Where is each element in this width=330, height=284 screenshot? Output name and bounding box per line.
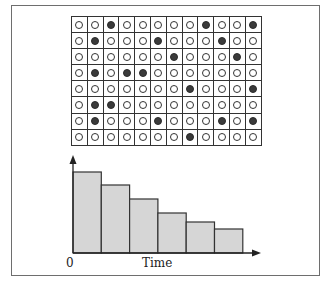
x-axis-arrow-icon bbox=[252, 250, 261, 257]
bar bbox=[158, 213, 186, 253]
bar bbox=[101, 185, 129, 253]
y-axis-arrow-icon bbox=[70, 155, 77, 164]
origin-label: 0 bbox=[66, 256, 74, 270]
bar bbox=[130, 199, 158, 253]
x-axis-label: Time bbox=[142, 256, 172, 270]
decay-bar-chart bbox=[0, 0, 330, 284]
bar bbox=[186, 222, 214, 253]
bar bbox=[215, 229, 243, 253]
bar bbox=[73, 172, 101, 253]
